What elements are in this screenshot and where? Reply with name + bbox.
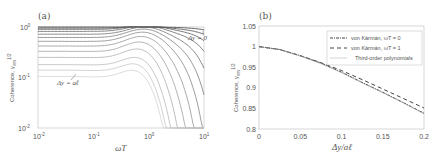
coherence-curve <box>38 64 204 128</box>
legend: von Kármán, ωT = 0 von Kármán, ωT = 1 Th… <box>327 31 422 65</box>
x-axis-label-b: Δy/aℓ <box>331 142 352 152</box>
annotation-dy-al: Δy = aℓ <box>56 79 79 87</box>
coherence-curve <box>38 57 204 128</box>
annotation-dy-zero: Δy = 0 <box>187 34 207 42</box>
xtick-b: 0.1 <box>337 133 347 140</box>
coherence-curve <box>38 27 204 68</box>
legend-label-2: Third-order polynomials <box>355 55 413 61</box>
y-axis-label-b: Coherence, γww1/2 <box>231 63 241 112</box>
legend-label-1: von Kármán, ωT = 1 <box>351 45 401 51</box>
xtick-b: 0.15 <box>376 133 390 140</box>
ytick-b: 1 <box>252 43 256 50</box>
ytick-b: 0.9 <box>246 84 256 91</box>
panel-a-curves <box>38 27 204 128</box>
figure: (a) 100 10-1 10-2 10-2 10-1 100 101 ωT C… <box>0 0 445 154</box>
xtick-b: 0.05 <box>293 133 307 140</box>
ytick-b: 1.05 <box>242 23 256 30</box>
ytick-b: 0.85 <box>242 105 256 112</box>
xtick-a-3: 101 <box>199 132 210 140</box>
panel-a-label: (a) <box>38 11 50 21</box>
ytick-a-1: 10-1 <box>18 73 30 81</box>
panel-b: (b) 00.050.10.150.20.80.850.90.9511.05 Δ… <box>231 11 429 152</box>
xtick-a-1: 10-1 <box>88 132 100 140</box>
xtick-b: 0.2 <box>419 133 429 140</box>
ytick-b: 0.95 <box>242 64 256 71</box>
ytick-b: 0.8 <box>246 126 256 133</box>
ytick-a-0: 100 <box>20 23 31 31</box>
panel-b-label: (b) <box>259 11 272 21</box>
xtick-a-0: 10-2 <box>33 132 45 140</box>
xtick-b: 0 <box>257 133 261 140</box>
panel-a: (a) 100 10-1 10-2 10-2 10-1 100 101 ωT C… <box>7 11 210 153</box>
ytick-a-2: 10-2 <box>18 124 30 132</box>
x-axis-label-a: ωT <box>115 143 127 153</box>
xtick-a-2: 100 <box>144 132 155 140</box>
legend-label-0: von Kármán, ωT = 0 <box>351 35 401 41</box>
y-axis-label-a: Coherence, γww1/2 <box>7 53 17 102</box>
